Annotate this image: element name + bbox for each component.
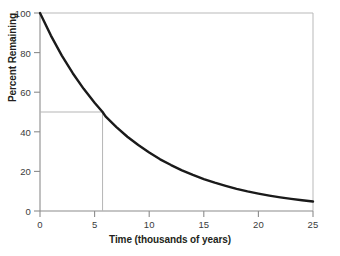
x-tick-label-20: 20 xyxy=(253,219,264,230)
x-axis-ticks xyxy=(40,211,313,217)
decay-curve-plot xyxy=(0,0,340,256)
y-tick-label-0: 0 xyxy=(0,206,31,217)
y-tick-label-40: 40 xyxy=(0,126,31,137)
x-tick-label-15: 15 xyxy=(198,219,209,230)
half-life-guide-lines xyxy=(40,112,103,211)
x-tick-label-0: 0 xyxy=(37,219,42,230)
x-tick-label-25: 25 xyxy=(308,219,319,230)
y-axis-ticks xyxy=(34,13,40,211)
x-tick-label-10: 10 xyxy=(144,219,155,230)
chart-figure: 100 80 60 40 20 0 0 5 10 15 20 25 Time (… xyxy=(0,0,340,256)
y-tick-label-20: 20 xyxy=(0,166,31,177)
x-axis-title: Time (thousands of years) xyxy=(0,234,340,245)
decay-curve xyxy=(40,13,313,202)
x-tick-label-5: 5 xyxy=(92,219,97,230)
y-axis-title: Percent Remaining xyxy=(7,0,18,118)
